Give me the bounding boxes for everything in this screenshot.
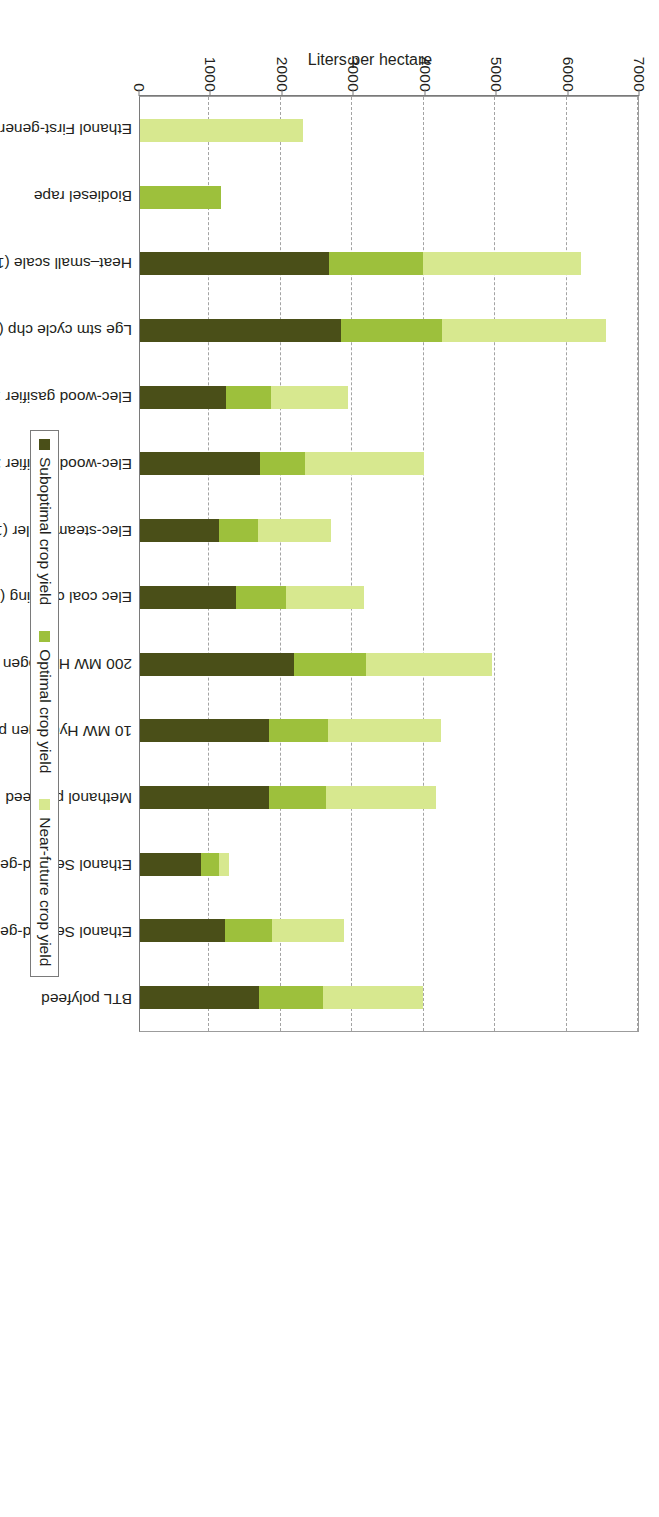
bar-segment[interactable] (341, 319, 442, 342)
value-axis-tick-label: 5000 (487, 57, 505, 92)
bar-segment[interactable] (294, 653, 366, 676)
bar-segment[interactable] (272, 919, 344, 942)
category-axis: Ethanol First-generation wheat grainBiod… (8, 96, 138, 1032)
category-slot: Ethanol Second-generation polyfeed (8, 898, 138, 965)
bar-segment[interactable] (423, 252, 581, 275)
bar-segment[interactable] (366, 653, 492, 676)
stacked-bar[interactable] (140, 786, 436, 809)
stacked-bar[interactable] (140, 319, 606, 342)
stacked-bar[interactable] (140, 986, 423, 1009)
category-axis-label: Elec-steam boiler (100% biomass) polyfee… (0, 522, 132, 540)
bar-slot (140, 497, 638, 564)
bar-slot (140, 764, 638, 831)
value-axis-tick-label: 1000 (201, 57, 219, 92)
bar-segment[interactable] (271, 386, 348, 409)
category-slot: Elec-wood gasifier 200 MWth polyfeed (8, 430, 138, 497)
bar-segment[interactable] (259, 986, 323, 1009)
bar-segment[interactable] (140, 786, 269, 809)
bar-segment[interactable] (201, 853, 218, 876)
value-axis-tick-mark (139, 89, 140, 96)
bar-segment[interactable] (140, 452, 260, 475)
category-axis-label: BTL polyfeed (41, 990, 132, 1008)
bar-segment[interactable] (140, 853, 201, 876)
legend-item[interactable]: Suboptimal crop yield (36, 439, 54, 605)
legend-item[interactable]: Optimal crop yield (36, 631, 54, 773)
stacked-bar[interactable] (140, 186, 221, 209)
legend-item[interactable]: Near-future crop yield (36, 799, 54, 966)
bar-segment[interactable] (236, 586, 286, 609)
bar-segment[interactable] (329, 252, 423, 275)
bar-segment[interactable] (219, 853, 230, 876)
category-slot: 200 MW Hydrogen polyfeed (8, 631, 138, 698)
bar-segment[interactable] (140, 986, 259, 1009)
value-axis-tick-label: 7000 (630, 57, 648, 92)
value-axis: 01000200030004000500060007000 Liters per… (139, 0, 639, 96)
stacked-bar[interactable] (140, 386, 348, 409)
bar-slot (140, 564, 638, 631)
bar-segment[interactable] (286, 586, 364, 609)
category-axis-label: Ethanol Second-generation straw (0, 856, 132, 874)
bar-slot (140, 97, 638, 164)
bar-segment[interactable] (140, 586, 236, 609)
bar-slot (140, 898, 638, 965)
stacked-bar[interactable] (140, 919, 344, 942)
stacked-bar[interactable] (140, 853, 229, 876)
bar-segment[interactable] (140, 252, 329, 275)
category-axis-label: Methanol polyfeed (5, 789, 132, 807)
bar-slot (140, 697, 638, 764)
bar-slot (140, 431, 638, 498)
bar-segment[interactable] (328, 719, 442, 742)
bar-slot (140, 164, 638, 231)
bar-segment[interactable] (140, 919, 225, 942)
bar-slot (140, 631, 638, 698)
bar-slot (140, 230, 638, 297)
bar-segment[interactable] (225, 919, 272, 942)
stacked-bar[interactable] (140, 119, 303, 142)
bar-segment[interactable] (140, 653, 294, 676)
bar-segment[interactable] (140, 186, 221, 209)
category-axis-label: 10 MW Hydrogen polyfeed (0, 722, 132, 740)
bar-segment[interactable] (140, 119, 303, 142)
category-slot: Biodiesel rape (8, 163, 138, 230)
bar-slot (140, 297, 638, 364)
category-slot: BTL polyfeed (8, 965, 138, 1032)
bar-segment[interactable] (305, 452, 424, 475)
stacked-bar[interactable] (140, 519, 331, 542)
category-slot: Elec coal co-firing (10% max biomass) po… (8, 564, 138, 631)
category-slot: Heat–small scale (1 MWth) polyfeed (8, 230, 138, 297)
stacked-bar[interactable] (140, 586, 364, 609)
value-axis-tick-mark (281, 89, 282, 96)
bar-segment[interactable] (269, 786, 325, 809)
bar-segment[interactable] (326, 786, 437, 809)
category-axis-label: Heat–small scale (1 MWth) polyfeed (0, 254, 132, 272)
bar-segment[interactable] (323, 986, 423, 1009)
bar-segment[interactable] (226, 386, 271, 409)
category-slot: Methanol polyfeed (8, 765, 138, 832)
bar-segment[interactable] (442, 319, 606, 342)
stacked-bar[interactable] (140, 452, 424, 475)
bar-segment[interactable] (260, 452, 305, 475)
bar-segment[interactable] (140, 386, 226, 409)
bar-segment[interactable] (269, 719, 328, 742)
bar-segment[interactable] (140, 319, 341, 342)
plot-area (139, 96, 639, 1032)
bar-segment[interactable] (219, 519, 258, 542)
bar-segment[interactable] (140, 519, 219, 542)
value-axis-tick-mark (210, 89, 211, 96)
stacked-bar[interactable] (140, 719, 441, 742)
category-slot: Ethanol Second-generation straw (8, 831, 138, 898)
bar-slot (140, 364, 638, 431)
category-axis-label: 200 MW Hydrogen polyfeed (0, 655, 132, 673)
bar-segment[interactable] (140, 719, 269, 742)
category-axis-label: Elec-wood gasifier 200 MWth polyfeed (0, 455, 132, 473)
category-axis-label: Biodiesel rape (34, 187, 132, 205)
category-slot: Elec-wood gasifier 10 MWth polyfeed (8, 363, 138, 430)
category-axis-label: Elec-wood gasifier 10 MWth polyfeed (0, 388, 132, 406)
rotated-figure: 01000200030004000500060007000 Liters per… (0, 0, 659, 1517)
bar-segment[interactable] (258, 519, 331, 542)
category-axis-label: Lge stm cycle chp (30 MWth + 12 MWe) pol… (0, 321, 132, 339)
stacked-bar[interactable] (140, 653, 492, 676)
legend-swatch-icon (40, 631, 51, 642)
stacked-bar[interactable] (140, 252, 581, 275)
value-axis-tick-mark (639, 89, 640, 96)
